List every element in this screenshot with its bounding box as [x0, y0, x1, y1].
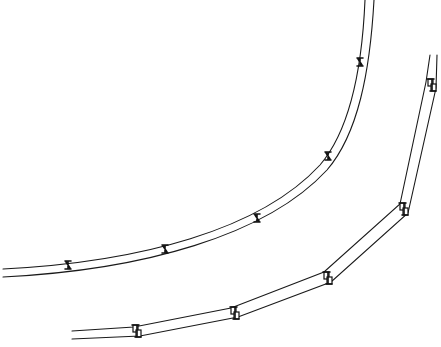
x-clip-joint-icon — [254, 214, 260, 222]
segmented-strip — [72, 55, 437, 339]
diagram-canvas — [0, 0, 441, 347]
curved-strip — [3, 0, 374, 277]
segmented-strip-outer-rail — [72, 55, 430, 331]
curved-strip-outer-rail — [3, 0, 365, 269]
segmented-strip-inner-rail — [72, 55, 437, 339]
box-joint-icon — [230, 307, 239, 319]
strip-drawing — [0, 0, 441, 347]
curved-strip-inner-rail — [3, 0, 374, 277]
curved-strip-joints — [65, 58, 363, 269]
x-clip-joint-icon — [325, 152, 331, 160]
box-joint-icon — [323, 272, 332, 284]
x-clip-joint-icon — [357, 58, 363, 66]
box-joint-icon — [132, 325, 141, 337]
segmented-strip-joints — [132, 79, 436, 337]
x-clip-joint-icon — [162, 245, 168, 253]
box-joint-icon — [399, 203, 408, 215]
x-clip-joint-icon — [65, 261, 71, 269]
box-joint-icon — [427, 79, 436, 91]
